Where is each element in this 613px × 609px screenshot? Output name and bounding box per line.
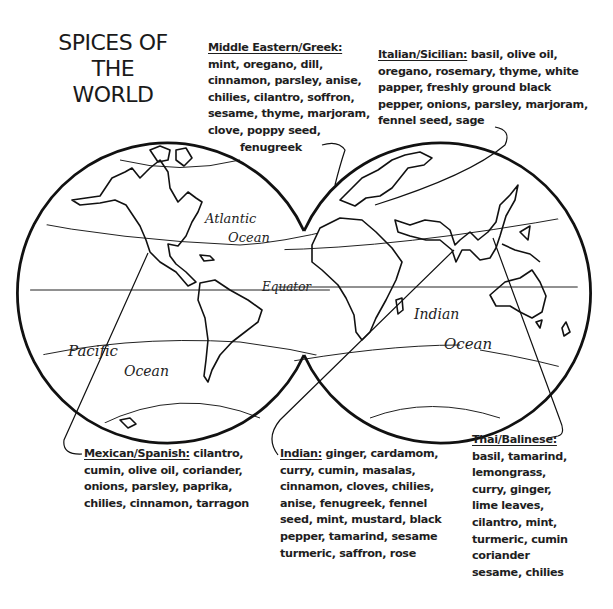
note-middle-eastern: Middle Eastern/Greek: mint, oregano, dil… bbox=[208, 40, 370, 156]
spice-line: anise, fenugreek, fennel bbox=[280, 496, 441, 513]
spice-line: basil, olive oil, bbox=[467, 48, 557, 61]
spice-line: cumin, olive oil, coriander, bbox=[84, 463, 249, 480]
indian-label-2: Ocean bbox=[444, 335, 492, 353]
spice-line: turmeric, cumin bbox=[472, 532, 568, 549]
spice-line: oregano, rosemary, thyme, white bbox=[378, 64, 588, 81]
spice-line: basil, tamarind, bbox=[472, 449, 568, 466]
spice-line: onions, parsley, paprika, bbox=[84, 479, 249, 496]
left-hemisphere bbox=[17, 143, 304, 443]
spice-line: fenugreek bbox=[208, 140, 370, 157]
spice-line: cilantro, mint, bbox=[472, 515, 568, 532]
north-america bbox=[72, 160, 202, 286]
spice-line: turmeric, saffron, rose bbox=[280, 546, 441, 563]
spice-line: clove, poppy seed, bbox=[208, 123, 370, 140]
africa bbox=[312, 218, 402, 340]
equator-label: Equator bbox=[261, 280, 312, 294]
spice-line: seed, mint, mustard, black bbox=[280, 512, 441, 529]
note-mexican: Mexican/Spanish: cilantro, cumin, olive … bbox=[84, 446, 249, 512]
spice-line: lemongrass, bbox=[472, 465, 568, 482]
spice-line: cinnamon, parsley, anise, bbox=[208, 73, 370, 90]
spice-line: fennel seed, sage bbox=[378, 113, 588, 130]
note-indian: Indian: ginger, cardamom, curry, cumin, … bbox=[280, 446, 441, 562]
south-america bbox=[198, 280, 262, 382]
australia bbox=[490, 270, 546, 318]
atlantic-label-2: Ocean bbox=[228, 230, 270, 245]
spice-line: pepper, onions, parsley, marjoram, bbox=[378, 97, 588, 114]
spice-line: cilantro, bbox=[190, 447, 244, 460]
note-italian: Italian/Sicilian: basil, olive oil, oreg… bbox=[378, 47, 588, 130]
spice-line: curry, cumin, masalas, bbox=[280, 463, 441, 480]
note-heading: Thai/Balinese: bbox=[472, 432, 568, 449]
spice-line: sesame, thyme, marjoram, bbox=[208, 106, 370, 123]
spice-line: papper, freshly ground black bbox=[378, 80, 588, 97]
indian-label: Indian bbox=[413, 306, 459, 322]
europe bbox=[340, 152, 432, 206]
note-thai: Thai/Balinese: basil, tamarind, lemongra… bbox=[472, 432, 568, 581]
note-heading: Mexican/Spanish: bbox=[84, 447, 190, 460]
spice-line: chilies, cilantro, soffron, bbox=[208, 90, 370, 107]
note-heading: Italian/Sicilian: bbox=[378, 48, 467, 61]
spice-line: lime leaves, bbox=[472, 498, 568, 515]
asia bbox=[395, 185, 518, 262]
spice-line: curry, ginger, bbox=[472, 482, 568, 499]
spice-line: sesame, chilies bbox=[472, 565, 568, 582]
pacific-label: Pacific bbox=[67, 342, 119, 360]
spice-line: cinnamon, cloves, chilies, bbox=[280, 479, 441, 496]
atlantic-label: Atlantic bbox=[204, 211, 257, 226]
spice-line: ginger, cardamom, bbox=[322, 447, 438, 460]
spice-line: chilies, cinnamon, tarragon bbox=[84, 496, 249, 513]
note-heading: Indian: bbox=[280, 447, 322, 460]
spice-line: coriander bbox=[472, 548, 568, 565]
spice-line: pepper, tamarind, sesame bbox=[280, 529, 441, 546]
right-hemisphere bbox=[304, 143, 591, 443]
note-heading: Middle Eastern/Greek: bbox=[208, 40, 370, 57]
spice-line: mint, oregano, dill, bbox=[208, 57, 370, 74]
pacific-label-2: Ocean bbox=[124, 363, 169, 379]
